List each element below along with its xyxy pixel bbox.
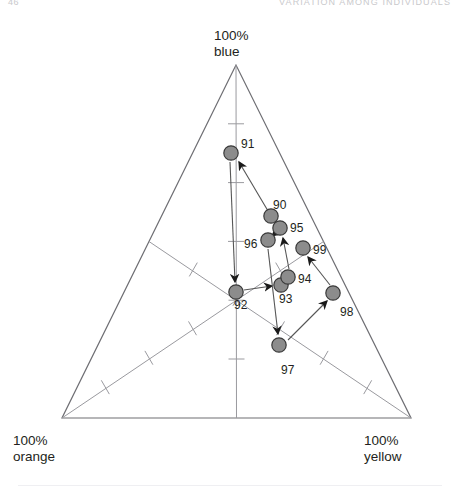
data-point-label: 96: [244, 237, 257, 251]
axis-label-orange: 100% orange: [13, 433, 55, 464]
data-point-label: 91: [241, 137, 254, 151]
data-point-label: 95: [290, 221, 303, 235]
data-point: [272, 338, 286, 352]
data-point: [281, 270, 295, 284]
data-point-label: 94: [298, 272, 311, 286]
data-point-label: 93: [279, 292, 292, 306]
axis-label-blue: 100% blue: [214, 28, 249, 59]
data-point-label: 97: [281, 363, 294, 377]
ternary-plot-figure: 90919293949596979899 100% blue 100% oran…: [0, 0, 461, 494]
ternary-plot-svg: [0, 0, 461, 494]
axis-label-yellow-name: yellow: [364, 449, 402, 465]
segment-92-93: [244, 286, 272, 290]
axis-label-orange-value: 100%: [13, 433, 55, 449]
axis-label-blue-name: blue: [214, 44, 249, 60]
axis-label-yellow: 100% yellow: [364, 433, 402, 464]
data-point-label: 98: [340, 305, 353, 319]
data-point: [224, 146, 238, 160]
data-point: [273, 221, 287, 235]
segment-90-91: [239, 162, 271, 216]
segment-91-92: [230, 162, 235, 282]
segment-96-97: [268, 249, 278, 334]
footer-rule: [18, 485, 442, 486]
data-point: [261, 233, 275, 247]
segment-94-95: [283, 238, 289, 269]
axis-orange: [62, 242, 324, 419]
data-point-label: 90: [273, 198, 286, 212]
axis-label-yellow-value: 100%: [364, 433, 402, 449]
data-point-label: 99: [313, 243, 326, 257]
axis-label-orange-name: orange: [13, 449, 55, 465]
axis-label-blue-value: 100%: [214, 28, 249, 44]
segment-97-98: [288, 301, 327, 340]
data-point: [296, 241, 310, 255]
data-point: [326, 286, 340, 300]
data-point-label: 92: [234, 298, 247, 312]
